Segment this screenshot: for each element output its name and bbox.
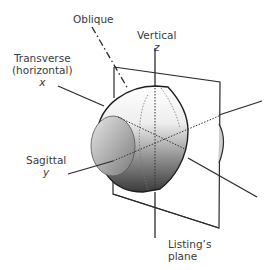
x-axis-symbol: x bbox=[12, 76, 73, 88]
transverse-label: Transverse (horizontal) x bbox=[12, 52, 73, 88]
vertical-label: Vertical z bbox=[137, 29, 176, 53]
cornea bbox=[91, 116, 135, 176]
sagittal-label: Sagittal y bbox=[26, 154, 66, 178]
oblique-label: Oblique bbox=[73, 13, 114, 25]
listings-plane-front-edge bbox=[113, 194, 219, 228]
posterior-eye-bulge bbox=[219, 124, 224, 163]
listings-plane-label: Listing’s plane bbox=[168, 238, 211, 262]
y-axis-symbol: y bbox=[26, 166, 66, 178]
z-axis-symbol: z bbox=[137, 41, 176, 53]
oblique-axis bbox=[92, 27, 128, 89]
transverse-axis-right bbox=[219, 101, 262, 115]
transverse-axis-left bbox=[58, 86, 104, 106]
transverse-axis-lower-right bbox=[188, 158, 257, 197]
